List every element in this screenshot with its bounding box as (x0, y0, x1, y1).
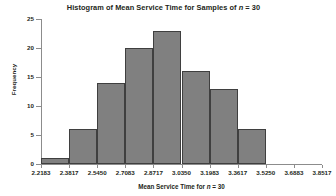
y-tick-label-0: 0 (0, 160, 34, 167)
x-tick-8 (266, 165, 267, 168)
y-tick-label-5: 5 (0, 131, 34, 138)
x-tick-9 (294, 165, 295, 168)
histogram-bar (153, 31, 181, 164)
histogram-bar (97, 83, 125, 164)
histogram-bar (125, 48, 153, 164)
chart-title: Histogram of Mean Service Time for Sampl… (0, 3, 327, 12)
plot-area (41, 19, 322, 164)
x-axis-title-before: Mean Service Time for (138, 183, 206, 190)
x-tick-7 (238, 165, 239, 168)
x-axis-title: Mean Service Time for n = 30 (41, 183, 322, 190)
x-tick-4 (153, 165, 154, 168)
y-tick-label-25: 25 (0, 15, 34, 22)
x-tick-5 (182, 165, 183, 168)
histogram-bar (41, 158, 69, 164)
x-tick-10 (322, 165, 323, 168)
chart-title-before: Histogram of Mean Service Time for Sampl… (67, 3, 239, 12)
histogram-bar (182, 71, 210, 164)
chart-title-after: = 30 (243, 3, 260, 12)
x-tick-2 (97, 165, 98, 168)
x-tick-6 (210, 165, 211, 168)
histogram-bar (238, 129, 266, 164)
y-tick-label-10: 10 (0, 102, 34, 109)
histogram-bar (69, 129, 97, 164)
x-tick-3 (125, 165, 126, 168)
x-tick-label-10: 3.8517 (300, 169, 336, 176)
x-tick-0 (41, 165, 42, 168)
x-axis-title-after: = 30 (211, 183, 225, 190)
y-tick-label-15: 15 (0, 73, 34, 80)
histogram-bar (210, 89, 238, 164)
x-tick-1 (69, 165, 70, 168)
y-tick-label-20: 20 (0, 44, 34, 51)
